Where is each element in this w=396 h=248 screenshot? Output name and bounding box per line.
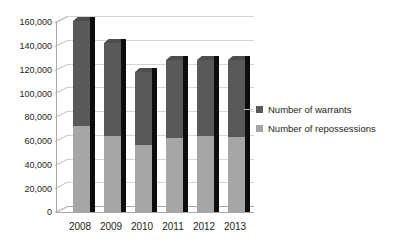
bar-side-face (183, 56, 188, 212)
bar-2012 (197, 60, 214, 212)
x-axis-line (56, 212, 254, 213)
gridline (68, 40, 254, 41)
gridline (68, 206, 254, 207)
legend-label-repossessions: Number of repossessions (268, 124, 376, 134)
y-axis-labels: 160,000 140,000 120,000 100,000 80,000 6… (0, 0, 52, 248)
bar-segment-warrants (73, 21, 90, 126)
y-tick-label: 80,000 (0, 113, 52, 122)
legend-swatch-repossessions (256, 125, 263, 132)
bar-segment-repossessions (197, 136, 214, 212)
bar-segment-repossessions (166, 138, 183, 212)
gridline (68, 87, 254, 88)
bar-2013 (228, 60, 245, 212)
bar-segment-warrants (228, 60, 245, 137)
bar-segment-repossessions (228, 137, 245, 212)
legend-item-warrants: Number of warrants (256, 102, 376, 117)
bar-segment-warrants (104, 43, 121, 136)
chart-container: 160,000 140,000 120,000 100,000 80,000 6… (0, 0, 396, 248)
y-tick-label: 60,000 (0, 137, 52, 146)
gridline (68, 64, 254, 65)
chart-legend: Number of warrants Number of repossessio… (256, 102, 376, 140)
bar-segment-warrants (166, 60, 183, 138)
bar-segment-repossessions (73, 126, 90, 212)
bar-segment-repossessions (104, 136, 121, 212)
legend-leader-line (244, 109, 253, 110)
bar-side-face (245, 56, 250, 212)
bar-side-face (214, 56, 219, 212)
bar-segment-warrants (135, 72, 152, 145)
plot-area: 160,000 140,000 120,000 100,000 80,000 6… (0, 0, 396, 248)
y-axis-line (56, 22, 57, 213)
y-tick-label: 100,000 (0, 90, 52, 99)
legend-item-repossessions: Number of repossessions (256, 121, 376, 136)
gridline (68, 135, 254, 136)
y-tick-label: 120,000 (0, 66, 52, 75)
gridline (68, 182, 254, 183)
legend-swatch-warrants (256, 106, 263, 113)
bar-side-face (152, 68, 157, 212)
y-tick-label: 160,000 (0, 18, 52, 27)
bar-side-face (121, 39, 126, 212)
bar-segment-repossessions (135, 145, 152, 212)
x-tick-label-2013: 2013 (217, 222, 253, 232)
y-tick-label: 40,000 (0, 161, 52, 170)
bar-segment-warrants (197, 60, 214, 136)
gridline (68, 159, 254, 160)
bar-2011 (166, 60, 183, 212)
y-tick-label: 0 (0, 208, 52, 217)
bar-2010 (135, 72, 152, 212)
legend-label-warrants: Number of warrants (268, 105, 351, 115)
gridline (68, 111, 254, 112)
bar-side-face (90, 17, 95, 212)
gridline (68, 16, 254, 17)
bar-2008 (73, 21, 90, 212)
y-tick-label: 20,000 (0, 185, 52, 194)
bar-2009 (104, 43, 121, 212)
y-tick-label: 140,000 (0, 42, 52, 51)
